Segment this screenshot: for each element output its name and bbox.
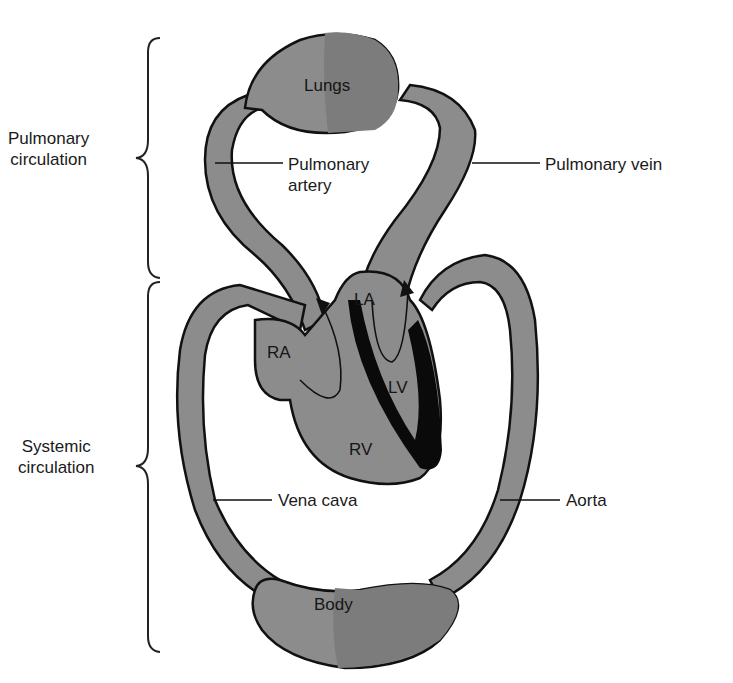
label-line: Pulmonary (288, 154, 369, 175)
label-line: circulation (8, 149, 89, 170)
ra-label: RA (267, 343, 291, 363)
label-line: Systemic (18, 436, 95, 457)
pulmonary-circulation-label: Pulmonary circulation (8, 128, 89, 170)
systemic-circulation-label: Systemic circulation (18, 436, 95, 478)
lv-label: LV (388, 378, 408, 398)
systemic-bracket (136, 282, 160, 652)
label-line: circulation (18, 457, 95, 478)
la-label: LA (354, 290, 375, 310)
circulation-diagram (0, 0, 733, 683)
label-line: Pulmonary (8, 128, 89, 149)
vena-cava-label: Vena cava (278, 490, 357, 511)
rv-label: RV (349, 440, 372, 460)
lungs-label: Lungs (304, 76, 350, 96)
label-line: artery (288, 175, 369, 196)
aorta-label: Aorta (566, 490, 607, 511)
pulmonary-bracket (136, 38, 160, 278)
body-label: Body (314, 595, 353, 615)
pulmonary-vein-label: Pulmonary vein (545, 154, 662, 175)
pulmonary-artery-label: Pulmonary artery (288, 154, 369, 196)
